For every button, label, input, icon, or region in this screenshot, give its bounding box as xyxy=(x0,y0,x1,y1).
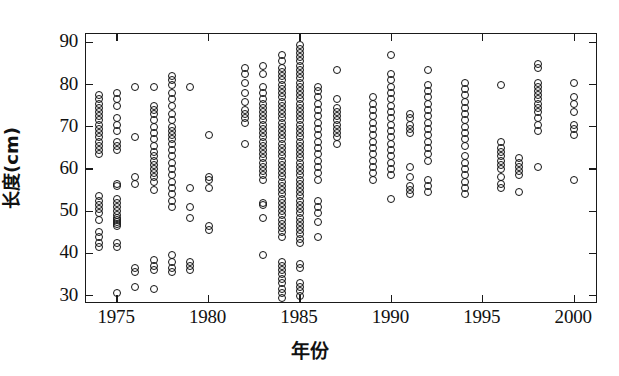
scatter-point xyxy=(113,182,121,190)
scatter-point xyxy=(406,173,414,181)
scatter-point xyxy=(534,163,542,171)
scatter-point xyxy=(333,95,341,103)
scatter-data-layer xyxy=(86,34,596,302)
scatter-point xyxy=(205,176,213,184)
scatter-point xyxy=(259,62,267,70)
x-tick-label: 1975 xyxy=(97,306,134,328)
scatter-point xyxy=(461,190,469,198)
scatter-point xyxy=(515,188,523,196)
x-tick-label: 1985 xyxy=(280,306,317,328)
scatter-point xyxy=(534,127,542,135)
scatter-point xyxy=(186,214,194,222)
scatter-point xyxy=(278,233,286,241)
scatter-point xyxy=(131,283,139,291)
scatter-point xyxy=(314,176,322,184)
scatter-point xyxy=(95,150,103,158)
y-tick-label: 40 xyxy=(59,241,78,263)
scatter-point xyxy=(424,188,432,196)
scatter-point xyxy=(113,222,121,230)
scatter-point xyxy=(314,209,322,217)
scatter-point xyxy=(95,216,103,224)
scatter-point xyxy=(259,214,267,222)
scatter-point xyxy=(241,98,249,106)
scatter-point xyxy=(570,108,578,116)
y-axis-title: 长度(cm) xyxy=(0,127,23,209)
scatter-point xyxy=(406,129,414,137)
scatter-point xyxy=(534,64,542,72)
scatter-point xyxy=(387,195,395,203)
scatter-point xyxy=(296,292,304,300)
scatter-point xyxy=(131,180,139,188)
y-tick-label: 50 xyxy=(59,199,78,221)
scatter-point xyxy=(497,165,505,173)
scatter-point xyxy=(113,127,121,135)
scatter-point xyxy=(205,184,213,192)
scatter-point xyxy=(150,266,158,274)
scatter-point xyxy=(113,243,121,251)
scatter-point xyxy=(314,233,322,241)
scatter-point xyxy=(95,243,103,251)
scatter-point xyxy=(570,100,578,108)
scatter-point xyxy=(241,89,249,97)
scatter-point xyxy=(113,102,121,110)
scatter-point xyxy=(515,171,523,179)
scatter-point xyxy=(241,140,249,148)
x-tick-label: 1995 xyxy=(463,306,500,328)
scatter-point xyxy=(205,131,213,139)
scatter-point xyxy=(186,266,194,274)
scatter-point xyxy=(497,184,505,192)
y-tick-label: 70 xyxy=(59,115,78,137)
scatter-point xyxy=(150,186,158,194)
scatter-point xyxy=(131,83,139,91)
scatter-point xyxy=(113,289,121,297)
scatter-point xyxy=(150,178,158,186)
scatter-point xyxy=(570,79,578,87)
scatter-point xyxy=(369,176,377,184)
scatter-point xyxy=(186,83,194,91)
scatter-point xyxy=(406,163,414,171)
scatter-point xyxy=(150,285,158,293)
scatter-point xyxy=(406,190,414,198)
scatter-point xyxy=(387,171,395,179)
scatter-point xyxy=(570,176,578,184)
scatter-point xyxy=(387,51,395,59)
scatter-point xyxy=(205,226,213,234)
x-tick-label: 1990 xyxy=(372,306,409,328)
scatter-point xyxy=(570,131,578,139)
scatter-point xyxy=(314,218,322,226)
scatter-point xyxy=(259,201,267,209)
scatter-point xyxy=(168,268,176,276)
scatter-point xyxy=(278,294,286,302)
scatter-point xyxy=(259,176,267,184)
scatter-point xyxy=(113,146,121,154)
scatter-point xyxy=(168,203,176,211)
scatter-point xyxy=(296,239,304,247)
scatter-point xyxy=(241,70,249,78)
chart-screenshot: 长度(cm) 30405060708090 197519801985199019… xyxy=(0,0,619,376)
scatter-point xyxy=(497,81,505,89)
scatter-point xyxy=(296,264,304,272)
y-tick-label: 90 xyxy=(59,30,78,52)
scatter-point xyxy=(131,268,139,276)
plot-frame xyxy=(85,33,597,303)
scatter-point xyxy=(186,184,194,192)
scatter-point xyxy=(241,119,249,127)
x-tick-label: 2000 xyxy=(555,306,592,328)
scatter-point xyxy=(424,157,432,165)
scatter-point xyxy=(259,251,267,259)
scatter-point xyxy=(131,133,139,141)
scatter-point xyxy=(333,66,341,74)
scatter-point xyxy=(241,79,249,87)
y-tick-label: 80 xyxy=(59,73,78,95)
scatter-point xyxy=(168,102,176,110)
y-tick-label: 60 xyxy=(59,157,78,179)
scatter-point xyxy=(150,83,158,91)
scatter-point xyxy=(461,142,469,150)
x-tick-label: 1980 xyxy=(189,306,226,328)
y-tick-label: 30 xyxy=(59,284,78,306)
scatter-point xyxy=(259,70,267,78)
scatter-point xyxy=(186,203,194,211)
scatter-point xyxy=(424,66,432,74)
x-axis-title: 年份 xyxy=(0,336,619,363)
scatter-point xyxy=(333,140,341,148)
